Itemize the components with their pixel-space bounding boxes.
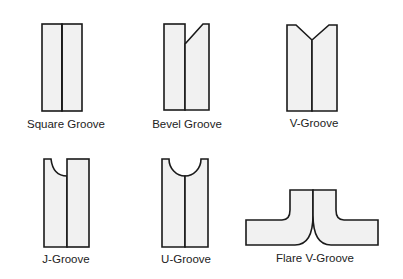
square-groove-figure: [42, 24, 82, 111]
square-groove-right-plate: [62, 24, 82, 111]
bevel-groove-left-plate: [164, 24, 185, 110]
v-groove-right-plate: [312, 25, 337, 111]
flare-v-groove-left-plate: [246, 190, 313, 245]
j-groove-left-plate: [44, 159, 67, 247]
square-groove-left-plate: [42, 24, 62, 111]
u-groove-right-plate: [185, 159, 208, 247]
label-v-groove: V-Groove: [290, 118, 339, 130]
flare-v-groove-figure: [246, 190, 378, 245]
label-flare-v-groove: Flare V-Groove: [276, 253, 354, 265]
label-j-groove: J-Groove: [42, 254, 89, 266]
v-groove-left-plate: [287, 25, 312, 111]
v-groove-figure: [287, 25, 337, 111]
bevel-groove-figure: [164, 24, 209, 110]
j-groove-right-plate: [67, 159, 89, 247]
label-square-groove: Square Groove: [27, 119, 105, 131]
u-groove-figure: [162, 159, 208, 247]
bevel-groove-right-plate: [185, 24, 209, 110]
u-groove-left-plate: [162, 159, 185, 247]
flare-v-groove-right-plate: [313, 190, 378, 245]
groove-diagram: [0, 0, 403, 279]
label-bevel-groove: Bevel Groove: [152, 119, 222, 131]
label-u-groove: U-Groove: [161, 254, 211, 266]
j-groove-figure: [44, 159, 89, 247]
